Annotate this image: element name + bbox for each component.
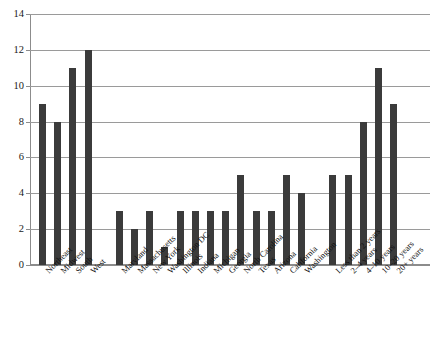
y-tick-label: 2 xyxy=(19,224,24,235)
y-tick-0 xyxy=(26,265,30,266)
y-tick-label: 4 xyxy=(19,188,24,199)
bar[interactable] xyxy=(116,211,123,265)
bar-chart: 02468101214 NortheastMidwestSouthWestMar… xyxy=(0,0,430,344)
y-tick-label: 12 xyxy=(14,45,25,56)
y-tick-label: 14 xyxy=(14,9,25,20)
bar[interactable] xyxy=(54,122,61,265)
y-tick-label: 0 xyxy=(19,260,24,271)
y-tick-label: 10 xyxy=(14,80,25,91)
bars-layer xyxy=(30,14,430,265)
x-axis-labels: NortheastMidwestSouthWestMarylandMassach… xyxy=(30,267,430,344)
bar[interactable] xyxy=(69,68,76,265)
plot-area: 02468101214 xyxy=(30,14,430,265)
bar[interactable] xyxy=(85,50,92,265)
y-tick-label: 8 xyxy=(19,116,24,127)
y-tick-label: 6 xyxy=(19,152,24,163)
bar[interactable] xyxy=(39,104,46,265)
bar[interactable] xyxy=(390,104,397,265)
